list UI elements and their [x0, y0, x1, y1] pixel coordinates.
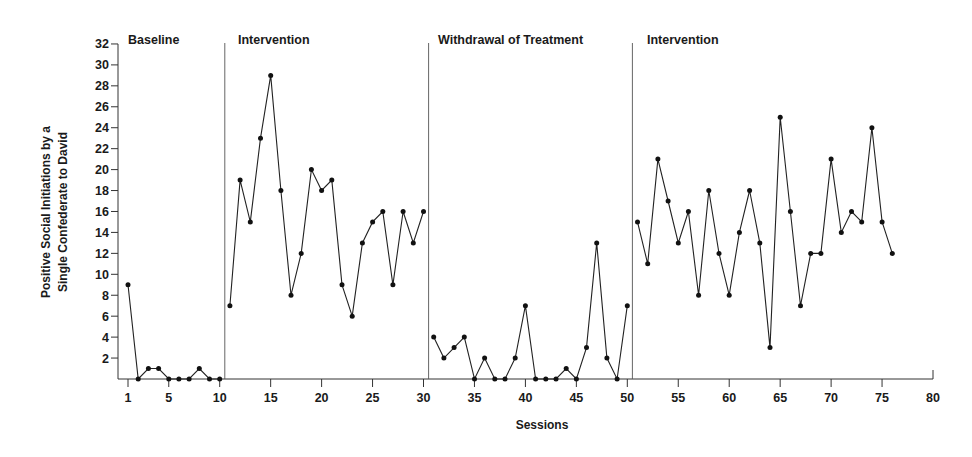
data-point — [482, 356, 487, 361]
x-tick-label: 1 — [125, 391, 132, 405]
x-tick-label: 55 — [671, 391, 685, 405]
data-point — [645, 261, 650, 266]
x-tick-label: 60 — [722, 391, 736, 405]
x-tick-label: 70 — [824, 391, 838, 405]
data-point — [431, 335, 436, 340]
y-tick-label: 32 — [95, 37, 109, 51]
data-point — [166, 377, 171, 382]
x-tick-label: 45 — [569, 391, 583, 405]
data-point — [187, 377, 192, 382]
phase-series-1 — [126, 282, 223, 381]
x-tick-label: 75 — [875, 391, 889, 405]
x-tick-label: 10 — [213, 391, 227, 405]
data-point — [503, 377, 508, 382]
data-point — [462, 335, 467, 340]
data-point — [747, 188, 752, 193]
data-point — [768, 345, 773, 350]
phase-series-4 — [635, 115, 895, 350]
data-point — [798, 303, 803, 308]
data-point — [808, 251, 813, 256]
data-point — [717, 251, 722, 256]
series-line — [638, 117, 893, 347]
data-point — [309, 167, 314, 172]
series-line — [230, 75, 424, 316]
y-axis-title: Positive Social Initiations by a Single … — [39, 126, 70, 298]
data-point — [492, 377, 497, 382]
x-axis-title: Sessions — [516, 418, 569, 432]
data-point — [543, 377, 548, 382]
data-point — [625, 303, 630, 308]
y-axis-title-line-2: Single Confederate to David — [56, 132, 70, 292]
data-point — [401, 209, 406, 214]
x-tick-label: 20 — [315, 391, 329, 405]
data-point — [666, 199, 671, 204]
data-point — [849, 209, 854, 214]
x-tick-label: 30 — [417, 391, 431, 405]
data-point — [176, 377, 181, 382]
data-point — [421, 209, 426, 214]
data-point — [859, 219, 864, 224]
y-tick-label: 16 — [95, 205, 109, 219]
data-point — [676, 240, 681, 245]
data-point — [411, 240, 416, 245]
y-tick-label: 18 — [95, 184, 109, 198]
data-point — [615, 377, 620, 382]
data-point — [238, 178, 243, 183]
data-point — [839, 230, 844, 235]
data-point — [706, 188, 711, 193]
x-tick-label: 35 — [468, 391, 482, 405]
data-point — [890, 251, 895, 256]
data-point — [686, 209, 691, 214]
data-point — [207, 377, 212, 382]
x-tick-label: 15 — [264, 391, 278, 405]
data-point — [319, 188, 324, 193]
data-point — [136, 377, 141, 382]
data-point — [554, 377, 559, 382]
data-point — [441, 356, 446, 361]
data-point — [655, 157, 660, 162]
data-point — [370, 219, 375, 224]
data-point — [289, 293, 294, 298]
data-point — [227, 303, 232, 308]
x-tick-label: 40 — [518, 391, 532, 405]
series-line — [128, 285, 220, 379]
phase-dividers — [225, 43, 633, 379]
data-point — [737, 230, 742, 235]
data-point — [880, 219, 885, 224]
x-tick-label: 5 — [165, 391, 172, 405]
y-tick-label: 28 — [95, 79, 109, 93]
data-point — [258, 136, 263, 141]
phase-label-intervention: Intervention — [238, 33, 310, 47]
data-point — [197, 366, 202, 371]
y-tick-label: 6 — [102, 310, 109, 324]
series-line — [434, 243, 628, 379]
y-tick-label: 10 — [95, 268, 109, 282]
data-series — [126, 73, 895, 382]
data-point — [788, 209, 793, 214]
y-tick-label: 2 — [102, 352, 109, 366]
data-point — [452, 345, 457, 350]
data-point — [869, 125, 874, 130]
phase-labels: BaselineInterventionWithdrawal of Treatm… — [128, 33, 719, 47]
y-tick-label: 14 — [95, 226, 109, 240]
data-point — [340, 282, 345, 287]
data-point — [268, 73, 273, 78]
data-point — [727, 293, 732, 298]
data-point — [523, 303, 528, 308]
y-tick-label: 8 — [102, 289, 109, 303]
phase-label-withdrawal-of-treatment: Withdrawal of Treatment — [438, 33, 584, 47]
y-tick-label: 4 — [102, 331, 109, 345]
phase-label-baseline: Baseline — [128, 33, 179, 47]
x-tick-label: 80 — [926, 391, 940, 405]
data-point — [278, 188, 283, 193]
y-tick-label: 20 — [95, 163, 109, 177]
data-point — [604, 356, 609, 361]
data-point — [533, 377, 538, 382]
data-point — [360, 240, 365, 245]
data-point — [380, 209, 385, 214]
data-point — [299, 251, 304, 256]
data-point — [217, 377, 222, 382]
y-tick-label: 22 — [95, 142, 109, 156]
x-tick-label: 65 — [773, 391, 787, 405]
data-point — [329, 178, 334, 183]
